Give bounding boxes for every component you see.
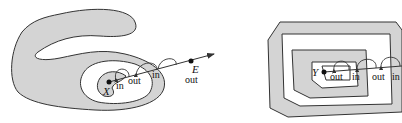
- label-x: X: [102, 85, 111, 97]
- left-loop-3: [158, 59, 176, 69]
- left-label-3: in: [152, 69, 160, 80]
- right-label-1: out: [330, 71, 343, 82]
- point-x: [107, 80, 112, 85]
- left-label-2: out: [128, 75, 141, 86]
- left-label-4: out: [185, 74, 198, 85]
- right-label-4: in: [392, 71, 400, 82]
- right-label-3: out: [372, 71, 385, 82]
- right-figure: Y out in out in: [268, 22, 402, 117]
- label-y: Y: [312, 66, 320, 78]
- left-figure: X E in out in out: [12, 9, 214, 110]
- diagram-canvas: X E in out in out Y out in out in: [0, 0, 402, 123]
- right-label-2: in: [352, 71, 360, 82]
- point-y: [322, 70, 327, 75]
- left-label-1: in: [116, 80, 124, 91]
